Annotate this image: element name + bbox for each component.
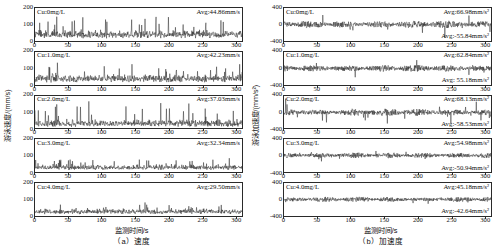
x-tick-row: 050100150200250300 [34,217,243,226]
panel-acceleration: 游泳加速度/(mm/s²) -4000400Cu:0mg/LAvg:66.98m… [249,0,498,249]
x-tick-mark [101,217,102,219]
x-tick-mark [485,217,486,219]
x-tick-mark [452,86,453,88]
x-tick-row: 050100150200250300 [34,129,243,138]
average-label-negative: Avg: 55.18mm/s² [442,77,489,84]
x-tick-mark [317,217,318,219]
y-tick-column-velocity-0: 0100200 [14,7,34,51]
x-tick-mark [384,86,385,88]
x-tick-mark [452,173,453,175]
figure-root: 游泳速度/(mm/s) 0100200Cu:0mg/LAvg:44.86mm/s… [0,0,498,249]
y-tick-label: -400 [270,82,282,89]
concentration-label: Cu:4.0mg/L [37,184,70,191]
x-tick-mark [485,129,486,131]
x-tick-mark [169,217,170,219]
y-tick-label: 0 [279,65,282,72]
y-tick-label: 100 [23,109,33,116]
axes-box: Cu:3.0mg/LAvg:32.34mm/s [34,138,243,173]
x-tick-mark [350,129,351,131]
axes-box: Cu:3.0mg/LAvg:54.98mm/s²Avg:-50.94mm/s² [283,138,492,173]
x-tick-mark [34,129,35,131]
plot-area-acceleration-0: Cu:0mg/LAvg:66.98mm/s²Avg:-55.84mm/s²050… [283,7,492,51]
concentration-label: Cu:1.0mg/L [37,52,70,59]
x-tick-mark [418,173,419,175]
y-axis-title-velocity: 游泳速度/(mm/s) [3,90,10,142]
x-tick-mark [236,86,237,88]
y-tick-label: -400 [270,170,282,177]
y-tick-label: 0 [279,196,282,203]
concentration-label: Cu:1.0mg/L [286,52,319,59]
x-tick-mark [317,42,318,44]
x-tick-mark [101,42,102,44]
y-tick-label: -400 [270,126,282,133]
x-tick-mark [203,86,204,88]
y-tick-column-velocity-1: 0100200 [14,51,34,95]
x-tick-mark [68,129,69,131]
average-label-positive: Avg:37.03mm/s [197,96,241,103]
average-label-positive: Avg:45.18mm/s² [443,184,489,191]
x-axis-title-acceleration: 监测时间/s [263,227,498,235]
axes-box: Cu:1.0mg/LAvg:42.23mm/s [34,51,243,86]
plot-area-velocity-0: Cu:0mg/LAvg:44.86mm/s050100150200250300 [34,7,243,51]
x-tick-mark [135,42,136,44]
x-tick-row: 050100150200250300 [283,42,492,51]
y-tick-column-acceleration-2: -4000400 [263,95,283,139]
y-tick-label: 400 [272,4,282,11]
y-tick-label: 200 [23,179,33,186]
x-tick-mark [169,173,170,175]
plot-area-velocity-3: Cu:3.0mg/LAvg:32.34mm/s05010015020025030… [34,138,243,182]
x-tick-row: 050100150200250300 [34,42,243,51]
data-series-line [284,60,491,77]
concentration-label: Cu:0mg/L [286,9,314,16]
x-tick-mark [169,129,170,131]
average-label-positive: Avg:32.34mm/s [197,140,241,147]
concentration-label: Cu:4.0mg/L [286,184,319,191]
subplot-acceleration-0: -4000400Cu:0mg/LAvg:66.98mm/s²Avg:-55.84… [263,7,492,51]
x-tick-mark [135,217,136,219]
y-tick-label: 400 [272,91,282,98]
x-tick-mark [418,129,419,131]
panel-caption-velocity: （a）速度 [14,235,249,249]
x-tick-mark [384,173,385,175]
y-tick-column-acceleration-1: -4000400 [263,51,283,95]
x-tick-mark [135,173,136,175]
subplot-stack-acceleration: -4000400Cu:0mg/LAvg:66.98mm/s²Avg:-55.84… [263,0,498,226]
data-series-line [35,158,242,170]
subplot-stack-velocity: 0100200Cu:0mg/LAvg:44.86mm/s050100150200… [14,0,249,226]
y-axis-title-wrap-acceleration: 游泳加速度/(mm/s²) [249,0,263,226]
x-tick-mark [283,173,284,175]
axes-box: Cu:4.0mg/LAvg:45.18mm/s²Avg:-42.64mm/s² [283,182,492,217]
x-tick-mark [485,173,486,175]
subplot-velocity-2: 0100200Cu:2.0mg/LAvg:37.03mm/s0501001502… [14,95,243,139]
x-tick-row: 050100150200250300 [283,129,492,138]
panel-velocity: 游泳速度/(mm/s) 0100200Cu:0mg/LAvg:44.86mm/s… [0,0,249,249]
subplot-acceleration-2: -4000400Cu:2.0mg/LAvg:68.13mm/s²Avg:-58.… [263,95,492,139]
concentration-label: Cu:2.0mg/L [286,96,319,103]
x-tick-mark [452,217,453,219]
panel-footer-acceleration: 监测时间/s （b）加速度 [249,226,498,249]
x-tick-mark [452,42,453,44]
plot-area-acceleration-2: Cu:2.0mg/LAvg:68.13mm/s²Avg:-58.53mm/s²0… [283,95,492,139]
x-tick-mark [283,86,284,88]
axes-box: Cu:2.0mg/LAvg:68.13mm/s²Avg:-58.53mm/s² [283,95,492,130]
subplot-acceleration-4: -4000400Cu:4.0mg/LAvg:45.18mm/s²Avg:-42.… [263,182,492,226]
x-tick-mark [283,129,284,131]
y-tick-label: 400 [272,135,282,142]
x-tick-row: 050100150200250300 [283,86,492,95]
x-tick-mark [68,173,69,175]
x-tick-mark [384,217,385,219]
x-tick-mark [34,86,35,88]
average-label-negative: Avg:-58.53mm/s² [441,121,489,128]
x-tick-mark [418,42,419,44]
y-tick-label: 400 [272,179,282,186]
data-series-line [35,62,242,82]
axes-box: Cu:4.0mg/LAvg:29.50mm/s [34,182,243,217]
panel-footer-velocity: 监测时间/s （a）速度 [0,226,249,249]
y-tick-label: 100 [23,196,33,203]
data-series-line [35,101,242,126]
data-series-line [284,197,491,204]
y-tick-column-velocity-2: 0100200 [14,95,34,139]
average-label-positive: Avg:54.98mm/s² [443,140,489,147]
average-label-positive: Avg:29.50mm/s [197,184,241,191]
subplot-acceleration-3: -4000400Cu:3.0mg/LAvg:54.98mm/s²Avg:-50.… [263,138,492,182]
